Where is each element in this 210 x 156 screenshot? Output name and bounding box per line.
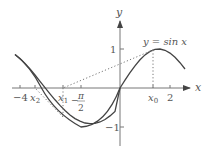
x-tick-label-x2: x2 bbox=[30, 92, 40, 105]
tangent-at-x0 bbox=[63, 50, 153, 88]
x-tick-label-x0: x0 bbox=[148, 92, 158, 105]
sine-curve-left bbox=[15, 55, 120, 127]
x-axis-label: x bbox=[195, 81, 202, 94]
x-tick-label-pi: π bbox=[77, 91, 85, 101]
x-tick-label-two-den: 2 bbox=[78, 103, 84, 113]
newton-method-diagram: y x 1 −1 y = sin x −4 x2 x1 − π 2 x0 2 bbox=[0, 0, 210, 156]
x-tick-label-2: 2 bbox=[167, 92, 173, 103]
x-tick-label-x1: x1 bbox=[58, 92, 68, 105]
y-axis-label: y bbox=[115, 6, 123, 19]
x-tick-label-minus4: −4 bbox=[13, 92, 28, 103]
curve-label: y = sin x bbox=[142, 36, 187, 47]
y-tick-label-minus1: −1 bbox=[105, 122, 120, 133]
y-tick-label-1: 1 bbox=[110, 44, 116, 55]
